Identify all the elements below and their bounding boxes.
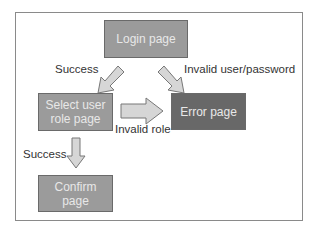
arrow-select-to-confirm-icon	[67, 138, 85, 168]
node-select-user-role-page: Select user role page	[38, 93, 113, 131]
node-label: Select user role page	[45, 98, 106, 126]
arrow-select-to-error-icon	[121, 98, 163, 124]
node-login-page: Login page	[104, 20, 188, 58]
node-error-page: Error page	[171, 93, 246, 130]
node-label: Login page	[116, 32, 175, 46]
arrow-login-to-error-icon	[158, 66, 184, 93]
node-label: Error page	[180, 105, 237, 119]
node-confirm-page: Confirm page	[38, 175, 113, 212]
node-label: Confirm page	[53, 180, 98, 208]
arrow-login-to-select-icon	[98, 66, 124, 93]
edge-label-invalid-role: Invalid role	[115, 123, 171, 135]
edge-label-success-login: Success	[55, 63, 98, 75]
edge-label-success-select: Success	[23, 148, 66, 160]
edge-label-invalid-user-password: Invalid user/password	[184, 63, 295, 75]
